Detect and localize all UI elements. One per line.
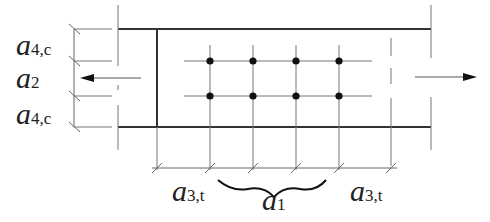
fastener-dot	[206, 57, 213, 64]
bottom-dimension-line	[152, 163, 397, 173]
fastener-dot	[206, 92, 213, 99]
fastener-dot	[249, 92, 256, 99]
fastener-spacing-diagram: a4,c a2 a4,c a3,t a1 a3,t	[0, 0, 490, 222]
label-a4c-bottom: a4,c	[16, 97, 52, 130]
label-a3t-right: a3,t	[350, 174, 383, 207]
fastener-dot	[249, 57, 256, 64]
arrow-left-icon	[80, 74, 94, 82]
left-force-arrow	[80, 74, 141, 82]
fasteners	[206, 57, 342, 99]
label-a2: a2	[16, 61, 40, 94]
label-a4c-top: a4,c	[16, 28, 52, 61]
fastener-grid-lines	[184, 45, 372, 113]
label-a1: a1	[262, 183, 286, 216]
fastener-dot	[335, 92, 342, 99]
left-dimension-line	[69, 24, 80, 132]
member-outline	[118, 29, 431, 127]
fastener-dot	[335, 57, 342, 64]
label-a3t-left: a3,t	[172, 174, 205, 207]
right-force-arrow	[415, 73, 477, 81]
arrow-right-icon	[463, 73, 477, 81]
fastener-dot	[292, 57, 299, 64]
fastener-dot	[292, 92, 299, 99]
